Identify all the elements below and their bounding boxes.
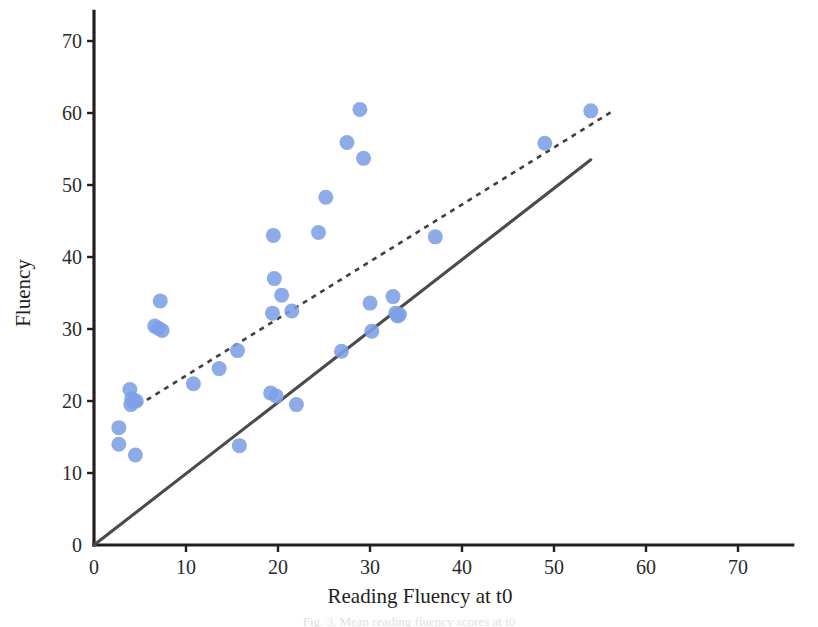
- scatter-point: [583, 103, 598, 118]
- y-tick-label: 30: [62, 318, 82, 340]
- trend-lines: [94, 112, 612, 545]
- regression-trend-line: [138, 112, 612, 406]
- x-axis-title: Reading Fluency at t0: [328, 584, 513, 608]
- scatter-point: [392, 307, 407, 322]
- x-tick-label: 0: [89, 556, 99, 578]
- scatter-point: [274, 288, 289, 303]
- scatter-point: [269, 388, 284, 403]
- x-tick-label: 50: [544, 556, 564, 578]
- figure-container: 010203040506070010203040506070 Reading F…: [0, 0, 818, 627]
- scatter-point: [267, 271, 282, 286]
- scatter-point: [230, 343, 245, 358]
- y-tick-label: 50: [62, 174, 82, 196]
- y-tick-label: 20: [62, 390, 82, 412]
- scatter-point: [537, 136, 552, 151]
- scatter-point: [364, 324, 379, 339]
- x-tick-label: 60: [636, 556, 656, 578]
- x-tick-label: 70: [728, 556, 748, 578]
- y-tick-label: 10: [62, 462, 82, 484]
- y-tick-label: 70: [62, 30, 82, 52]
- scatter-point: [340, 135, 355, 150]
- scatter-point: [186, 376, 201, 391]
- scatter-point: [265, 306, 280, 321]
- scatter-point: [318, 190, 333, 205]
- scatter-point: [111, 420, 126, 435]
- scatter-point: [334, 344, 349, 359]
- y-axis-title: Fluency: [11, 259, 35, 327]
- scatter-point: [386, 289, 401, 304]
- figure-caption: Fig. 3. Mean reading fluency scores at t…: [0, 614, 818, 627]
- scatter-point: [311, 225, 326, 240]
- x-tick-label: 30: [360, 556, 380, 578]
- scatter-point: [232, 438, 247, 453]
- scatter-point: [155, 323, 170, 338]
- data-points: [111, 102, 598, 463]
- scatter-point: [212, 361, 227, 376]
- x-tick-label: 40: [452, 556, 472, 578]
- scatter-point: [356, 151, 371, 166]
- y-tick-label: 0: [72, 534, 82, 556]
- x-tick-label: 20: [268, 556, 288, 578]
- scatter-plot: 010203040506070010203040506070 Reading F…: [0, 0, 818, 627]
- x-tick-label: 10: [176, 556, 196, 578]
- scatter-point: [153, 293, 168, 308]
- scatter-point: [289, 397, 304, 412]
- y-tick-label: 60: [62, 102, 82, 124]
- y-tick-label: 40: [62, 246, 82, 268]
- scatter-point: [284, 304, 299, 319]
- scatter-point: [128, 448, 143, 463]
- scatter-point: [428, 229, 443, 244]
- scatter-point: [129, 394, 144, 409]
- axis-labels: Reading Fluency at t0Fluency: [11, 259, 512, 608]
- scatter-point: [111, 437, 126, 452]
- scatter-point: [363, 296, 378, 311]
- scatter-point: [352, 102, 367, 117]
- scatter-point: [266, 228, 281, 243]
